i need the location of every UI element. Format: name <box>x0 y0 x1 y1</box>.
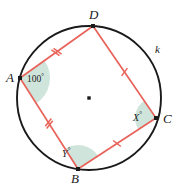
angle-label-a: 100° <box>27 73 44 85</box>
circle-name-label: k <box>155 44 160 55</box>
circle-center-dot <box>87 96 90 99</box>
vertex-dot-d <box>91 24 95 28</box>
geometry-figure-canvas: ADCB 100°X°Y° k <box>0 0 182 190</box>
angle-label-b: Y° <box>62 148 70 159</box>
degree-symbol-icon: ° <box>68 147 71 155</box>
vertex-dot-c <box>154 116 158 120</box>
vertex-label-d: D <box>89 8 98 21</box>
degree-symbol-icon: ° <box>139 111 142 119</box>
vertex-label-a: A <box>6 71 14 84</box>
vertex-label-c: C <box>163 112 172 125</box>
angle-label-c: X° <box>133 112 142 123</box>
degree-symbol-icon: ° <box>41 72 44 79</box>
vertex-dot-a <box>18 76 22 80</box>
vertex-label-b: B <box>71 172 79 185</box>
circle-quadrilateral-svg <box>0 0 182 190</box>
angle-value-a: 100 <box>27 74 41 84</box>
side-tick-marks <box>45 48 127 146</box>
